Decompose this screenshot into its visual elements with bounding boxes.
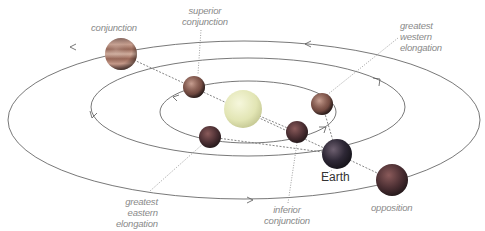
sun xyxy=(224,90,262,128)
planetary-configurations-diagram: conjunction superior conjunction greates… xyxy=(0,0,485,231)
arrow-icon xyxy=(70,44,76,50)
planet-earth xyxy=(322,139,352,169)
label-superior-conjunction: superior conjunction xyxy=(182,5,228,27)
label-greatest-western-elongation: greatest western elongation xyxy=(400,20,442,53)
label-conjunction: conjunction xyxy=(91,22,137,33)
planet-superior-conjunction xyxy=(183,76,205,98)
arrow-icon xyxy=(247,197,253,203)
planet-conjunction xyxy=(105,38,137,70)
label-earth: Earth xyxy=(321,170,350,184)
label-inferior-conjunction: inferior conjunction xyxy=(264,204,310,226)
arrow-icon xyxy=(90,111,97,118)
planet-greatest-western-elongation xyxy=(311,93,333,115)
label-opposition: opposition xyxy=(371,202,412,213)
planet-opposition xyxy=(376,164,408,196)
planet-greatest-eastern-elongation xyxy=(199,126,221,148)
label-greatest-eastern-elongation: greatest eastern elongation xyxy=(116,196,158,229)
planet-inferior-conjunction xyxy=(286,121,308,143)
arrow-icon xyxy=(173,95,179,101)
leader-lines xyxy=(150,30,398,203)
